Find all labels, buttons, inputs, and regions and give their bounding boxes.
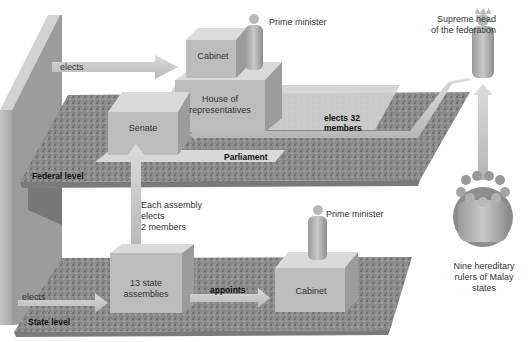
prime-minister-figure-federal xyxy=(245,14,263,70)
cabinet-block-state xyxy=(275,252,358,312)
state-assemblies-label: 13 stateassemblies xyxy=(112,278,180,300)
assembly-note-label: Each assemblyelects2 members xyxy=(141,200,202,233)
prime-minister-label-state: Prime minister xyxy=(326,209,384,220)
state-level-label: State level xyxy=(28,317,70,327)
elects-32-label: elects 32members xyxy=(324,113,362,133)
parliament-label: Parliament xyxy=(224,152,267,162)
appoints-label: appoints xyxy=(210,285,245,295)
supreme-head-label: Supreme headof the federation xyxy=(414,14,496,36)
cabinet-label-state: Cabinet xyxy=(278,286,344,297)
senate-label: Senate xyxy=(115,123,171,134)
elects-label-federal: elects xyxy=(60,62,84,73)
house-label: House of representatives xyxy=(175,94,265,116)
nine-rulers-label: Nine hereditaryrulers of Malaystates xyxy=(444,261,524,294)
cabinet-label-federal: Cabinet xyxy=(193,51,233,62)
nine-rulers-figures xyxy=(453,171,513,247)
elects-label-state: elects xyxy=(22,292,46,303)
federal-level-label: Federal level xyxy=(32,171,84,181)
prime-minister-label-federal: Prime minister xyxy=(269,17,327,28)
rulers-to-supreme-arrow xyxy=(473,84,493,180)
prime-minister-figure-state xyxy=(308,205,327,260)
